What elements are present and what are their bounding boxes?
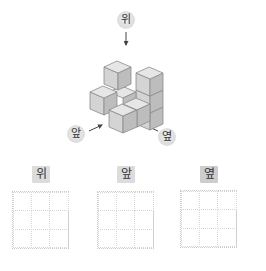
front-view-grid[interactable]: [97, 191, 154, 249]
grid-cell[interactable]: [98, 192, 117, 212]
grid-cell[interactable]: [116, 210, 135, 230]
grid-cell[interactable]: [181, 228, 200, 248]
grid-cell[interactable]: [181, 209, 200, 229]
top-view-grid[interactable]: [12, 191, 69, 249]
grid-cell[interactable]: [181, 191, 200, 211]
grid-cell[interactable]: [31, 192, 50, 212]
side-view-badge: 옆: [158, 128, 176, 146]
front-view-badge: 앞: [67, 125, 85, 143]
grid-cell[interactable]: [134, 210, 153, 230]
side-view-grid[interactable]: [180, 190, 237, 248]
grid-cell[interactable]: [13, 192, 32, 212]
grid-cell[interactable]: [49, 192, 68, 212]
grid-cell[interactable]: [217, 209, 236, 229]
side-view-label: 옆: [200, 166, 218, 183]
grid-cell[interactable]: [49, 229, 68, 249]
front-view-label: 앞: [117, 166, 135, 183]
grid-cell[interactable]: [98, 229, 117, 249]
grid-cell[interactable]: [31, 229, 50, 249]
arrow-up-right-icon: [89, 125, 102, 131]
grid-cell[interactable]: [116, 229, 135, 249]
top-view-badge: 위: [117, 11, 135, 29]
top-view-label: 위: [32, 166, 50, 183]
grid-cell[interactable]: [134, 192, 153, 212]
grid-cell[interactable]: [13, 210, 32, 230]
grid-cell[interactable]: [217, 228, 236, 248]
grid-cell[interactable]: [199, 228, 218, 248]
grid-cell[interactable]: [199, 209, 218, 229]
grid-cell[interactable]: [116, 192, 135, 212]
grid-cell[interactable]: [199, 191, 218, 211]
grid-cell[interactable]: [98, 210, 117, 230]
grid-cell[interactable]: [31, 210, 50, 230]
grid-cell[interactable]: [13, 229, 32, 249]
grid-cell[interactable]: [217, 191, 236, 211]
grid-cell[interactable]: [134, 229, 153, 249]
grid-cell[interactable]: [49, 210, 68, 230]
